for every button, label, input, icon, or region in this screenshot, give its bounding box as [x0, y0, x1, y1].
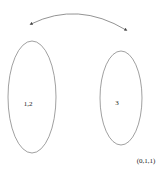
diagram-canvas: 1,2 3 (0,1,1) [0, 0, 160, 173]
partition-right-label: 3 [115, 99, 119, 107]
partition-left-ellipse [8, 41, 56, 153]
partition-left-label: 1,2 [24, 100, 33, 108]
swap-arrow [31, 14, 126, 30]
partition-right-ellipse [100, 51, 142, 145]
state-label: (0,1,1) [137, 157, 156, 165]
